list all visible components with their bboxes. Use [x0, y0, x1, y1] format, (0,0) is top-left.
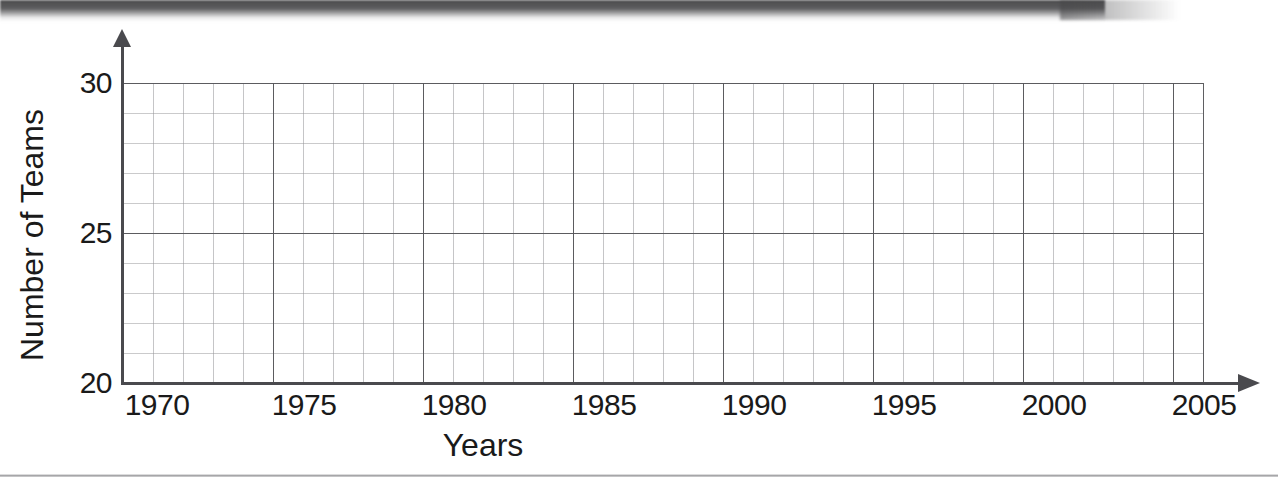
x-tick-label-1995: 1995 [844, 389, 964, 421]
x-tick-label-1975: 1975 [244, 389, 364, 421]
y-axis-title: Number of Teams [15, 65, 49, 405]
x-tick-label-1990: 1990 [694, 389, 814, 421]
x-tick-label-1970: 1970 [97, 389, 217, 421]
x-axis-tick-labels: 1970 1975 1980 1985 1990 1995 2000 2005 [0, 0, 1278, 483]
page-rule-bottom [0, 474, 1278, 477]
x-tick-label-1985: 1985 [544, 389, 664, 421]
x-tick-label-1980: 1980 [394, 389, 514, 421]
x-tick-label-2005: 2005 [1144, 389, 1264, 421]
x-axis-title: Years [383, 428, 583, 462]
x-tick-label-2000: 2000 [994, 389, 1114, 421]
chart-figure: 30 25 20 1970 1975 1980 1985 1990 1995 2… [0, 0, 1278, 483]
